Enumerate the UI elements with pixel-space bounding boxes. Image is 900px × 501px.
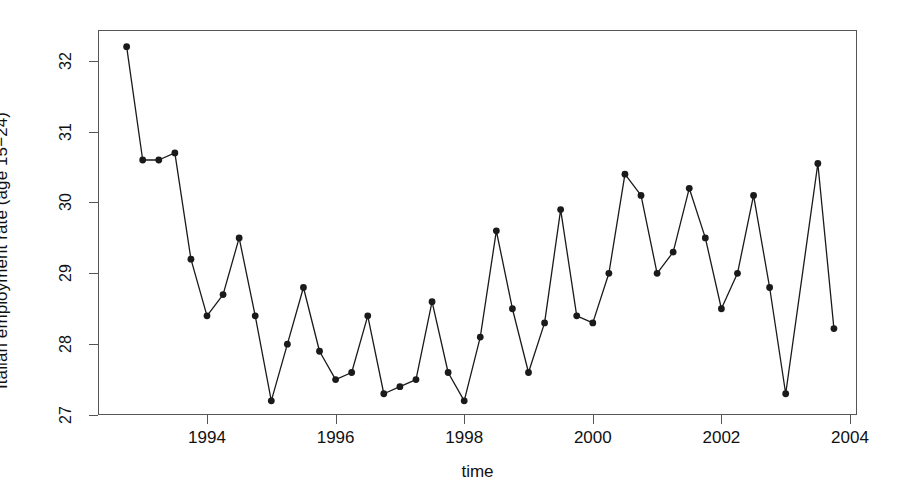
- y-tick-mark: [89, 415, 98, 416]
- y-tick-label-text: 29: [57, 264, 75, 282]
- x-tick-mark: [207, 415, 208, 424]
- y-axis-title-text: Italian employment rate (age 15−24): [0, 112, 12, 389]
- x-tick-mark: [464, 415, 465, 424]
- y-tick-label: 30: [50, 192, 82, 212]
- x-tick-label: 2002: [686, 428, 756, 448]
- y-tick-label: 32: [50, 51, 82, 71]
- x-tick-mark: [721, 415, 722, 424]
- x-tick-label: 2000: [558, 428, 628, 448]
- x-axis-title: time: [98, 462, 857, 482]
- x-tick-mark: [850, 415, 851, 424]
- y-tick-mark: [89, 61, 98, 62]
- y-tick-label: 31: [50, 122, 82, 142]
- y-tick-label-text: 28: [57, 335, 75, 353]
- y-tick-label: 28: [50, 334, 82, 354]
- y-tick-mark: [89, 273, 98, 274]
- x-tick-label: 2004: [815, 428, 885, 448]
- y-tick-label: 29: [50, 263, 82, 283]
- x-tick-mark: [593, 415, 594, 424]
- chart-figure: Italian employment rate (age 15−24) 2728…: [0, 0, 900, 501]
- x-tick-mark: [336, 415, 337, 424]
- y-tick-mark: [89, 344, 98, 345]
- y-tick-label-text: 30: [57, 194, 75, 212]
- y-tick-mark: [89, 132, 98, 133]
- x-tick-label: 1998: [429, 428, 499, 448]
- x-tick-label: 1996: [301, 428, 371, 448]
- y-tick-label-text: 32: [57, 52, 75, 70]
- plot-frame: [98, 30, 857, 415]
- y-tick-label: 27: [50, 405, 82, 425]
- y-tick-label-text: 27: [57, 406, 75, 424]
- y-axis-title: Italian employment rate (age 15−24): [0, 0, 46, 501]
- y-tick-label-text: 31: [57, 123, 75, 141]
- y-tick-mark: [89, 202, 98, 203]
- x-tick-label: 1994: [172, 428, 242, 448]
